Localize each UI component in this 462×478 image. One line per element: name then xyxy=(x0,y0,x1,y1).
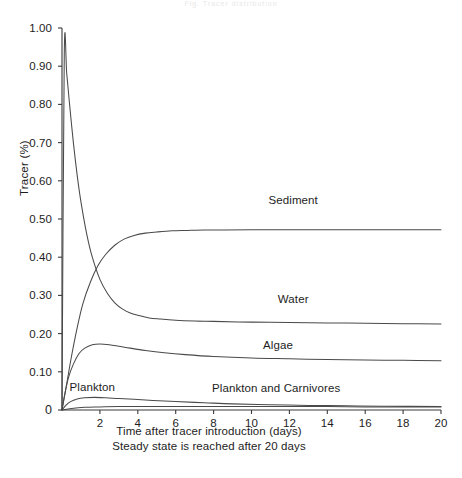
series-label-algae: Algae xyxy=(263,339,293,351)
x-axis-caption-line1: Time after tracer introduction (days) xyxy=(0,425,440,437)
series-label-water: Water xyxy=(278,293,309,305)
series-label-plankton: Plankton xyxy=(70,381,116,393)
figure-root: Fig. Tracer distribution 00.100.200.300.… xyxy=(0,0,462,478)
series-label-sediment: Sediment xyxy=(268,194,317,206)
x-axis-caption-line2: Steady state is reached after 20 days xyxy=(0,440,440,452)
y-axis-title: Tracer (%) xyxy=(18,140,30,196)
x-axis-tick-labels: 2468101214161820 xyxy=(0,0,462,478)
series-label-plankton-and-carnivores: Plankton and Carnivores xyxy=(212,382,340,394)
